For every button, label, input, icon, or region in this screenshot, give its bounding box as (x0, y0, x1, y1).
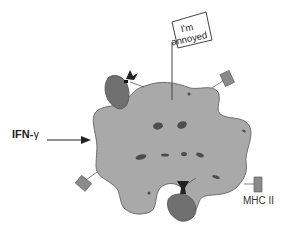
ifn-gamma-arrow (47, 136, 91, 144)
mhc-ii-label: MHC II (243, 195, 274, 206)
ifn-prefix: IFN- (12, 128, 33, 140)
macrophage-diagram (0, 0, 284, 232)
gamma-symbol: γ (33, 128, 39, 140)
ifn-gamma-label: IFN-γ (12, 128, 39, 140)
